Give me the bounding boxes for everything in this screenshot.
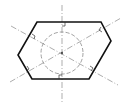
center-point <box>61 52 63 54</box>
hexagon-drawing <box>0 0 130 108</box>
hexagon-outline <box>18 22 111 79</box>
right-angle-mark-lower-right <box>90 66 93 71</box>
right-angle-marks <box>26 22 102 79</box>
